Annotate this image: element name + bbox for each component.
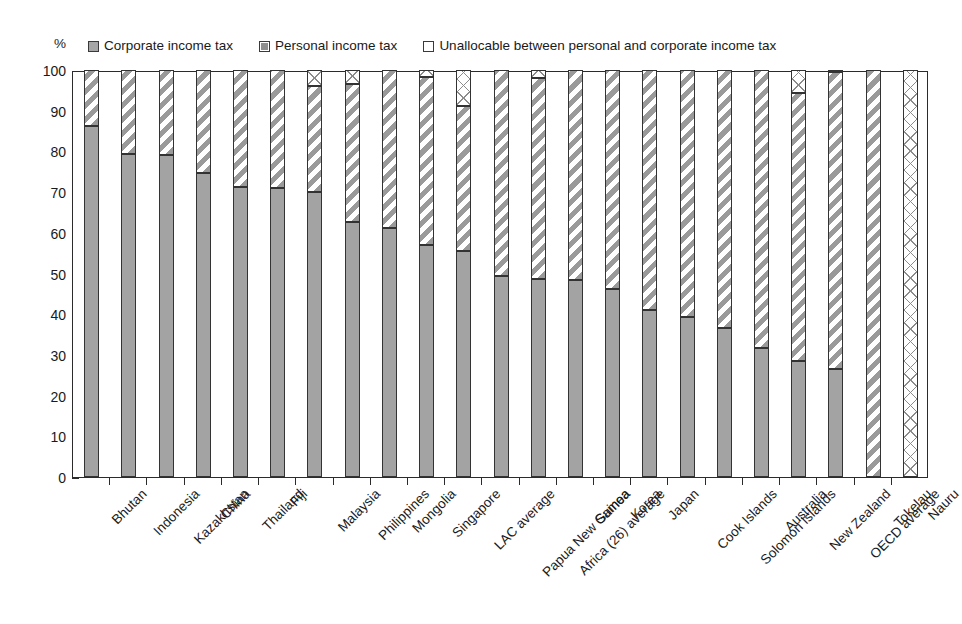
legend-entry[interactable]: Personal income tax <box>259 39 397 53</box>
bar-kazakhstan[interactable] <box>159 70 174 477</box>
bar-tokelau[interactable] <box>866 70 881 477</box>
bar-segment-personal <box>419 77 434 245</box>
bar-segment-corporate <box>307 192 322 477</box>
chart-legend: Corporate income taxPersonal income taxU… <box>88 35 776 57</box>
bar-segment-unallocable <box>307 70 322 86</box>
bar-fiji[interactable] <box>270 70 285 477</box>
legend-swatch-filled-icon <box>88 41 99 52</box>
x-axis-tick <box>221 478 222 485</box>
x-axis-category-label: Malaysia <box>336 487 383 534</box>
bar-new-zealand[interactable] <box>791 70 806 477</box>
bar-singapore[interactable] <box>419 70 434 477</box>
bar-segment-personal <box>717 70 732 328</box>
y-axis-labels: 0102030405060708090100 <box>0 0 66 624</box>
y-axis-tick-label: 50 <box>22 268 66 282</box>
bar-segment-personal <box>196 70 211 173</box>
x-axis-tick <box>481 478 482 485</box>
x-axis-tick <box>370 478 371 485</box>
bar-segment-corporate <box>159 155 174 477</box>
bar-segment-personal <box>84 70 99 126</box>
x-axis-tick <box>295 478 296 485</box>
bar-segment-corporate <box>494 276 509 477</box>
y-axis-tick-label: 70 <box>22 186 66 200</box>
bar-segment-unallocable <box>828 70 843 72</box>
x-axis-tick <box>258 478 259 485</box>
bar-segment-personal <box>866 70 881 477</box>
y-axis-tick-label: 90 <box>22 105 66 119</box>
x-axis-tick <box>146 478 147 485</box>
bar-nauru[interactable] <box>903 70 918 477</box>
x-axis-tick <box>593 478 594 485</box>
bar-segment-personal <box>754 70 769 348</box>
bar-cook-islands[interactable] <box>680 70 695 477</box>
bar-segment-personal <box>345 84 360 222</box>
y-axis-tick <box>72 478 79 479</box>
bar-segment-personal <box>121 70 136 154</box>
bar-segment-corporate <box>382 228 397 477</box>
bar-philippines[interactable] <box>345 70 360 477</box>
x-axis-tick <box>779 478 780 485</box>
x-axis-tick <box>556 478 557 485</box>
bar-segment-corporate <box>717 328 732 477</box>
bar-australia[interactable] <box>754 70 769 477</box>
bar-korea[interactable] <box>605 70 620 477</box>
x-axis-tick <box>705 478 706 485</box>
x-axis-category-label: China <box>219 487 253 521</box>
bar-segment-unallocable <box>531 70 546 78</box>
legend-entry[interactable]: Corporate income tax <box>88 39 233 53</box>
bar-segment-personal <box>605 70 620 289</box>
bar-segment-corporate <box>642 310 657 477</box>
bar-oecd-average[interactable] <box>828 70 843 477</box>
bar-segment-personal <box>568 70 583 280</box>
bar-segment-personal <box>494 70 509 276</box>
bar-segment-personal <box>456 106 471 251</box>
bar-segment-personal <box>307 86 322 192</box>
bar-africa-26-average[interactable] <box>531 70 546 477</box>
x-axis-tick <box>184 478 185 485</box>
bar-indonesia[interactable] <box>121 70 136 477</box>
bar-segment-personal <box>642 70 657 310</box>
x-axis-tick <box>109 478 110 485</box>
bar-segment-corporate <box>680 317 695 477</box>
x-axis-tick <box>519 478 520 485</box>
x-axis-tick <box>667 478 668 485</box>
plot-area <box>72 71 928 478</box>
y-axis-tick-label: 80 <box>22 145 66 159</box>
bar-segment-corporate <box>791 361 806 477</box>
x-axis-tick <box>742 478 743 485</box>
bar-segment-unallocable <box>791 70 806 93</box>
bar-malaysia[interactable] <box>307 70 322 477</box>
bar-segment-personal <box>270 70 285 188</box>
bar-mongolia[interactable] <box>382 70 397 477</box>
legend-label: Corporate income tax <box>104 39 233 53</box>
bar-thailand[interactable] <box>233 70 248 477</box>
legend-swatch-hatched-icon <box>259 41 270 52</box>
legend-swatch-empty-icon <box>423 41 434 52</box>
bar-solomon-islands[interactable] <box>717 70 732 477</box>
bar-segment-personal <box>159 70 174 155</box>
bar-china[interactable] <box>196 70 211 477</box>
bar-segment-unallocable <box>456 70 471 106</box>
bar-segment-personal <box>531 78 546 279</box>
bar-samoa[interactable] <box>568 70 583 477</box>
bar-lac-average[interactable] <box>456 70 471 477</box>
bar-segment-corporate <box>345 222 360 477</box>
bar-segment-corporate <box>270 188 285 477</box>
bar-segment-unallocable <box>345 70 360 84</box>
x-axis-category-label: Japan <box>666 487 702 523</box>
x-axis-tick <box>333 478 334 485</box>
bar-bhutan[interactable] <box>84 70 99 477</box>
legend-entry[interactable]: Unallocable between personal and corpora… <box>423 39 776 53</box>
bar-segment-corporate <box>828 369 843 477</box>
bar-papua-new-guinea[interactable] <box>494 70 509 477</box>
y-axis-tick-label: 60 <box>22 227 66 241</box>
bar-segment-corporate <box>754 348 769 477</box>
y-axis-tick-label: 0 <box>22 471 66 485</box>
x-axis-category-label: Indonesia <box>151 487 202 538</box>
bar-segment-corporate <box>196 173 211 477</box>
bar-segment-corporate <box>568 280 583 477</box>
bar-japan[interactable] <box>642 70 657 477</box>
bar-segment-unallocable <box>903 70 918 477</box>
y-axis-tick-label: 10 <box>22 430 66 444</box>
